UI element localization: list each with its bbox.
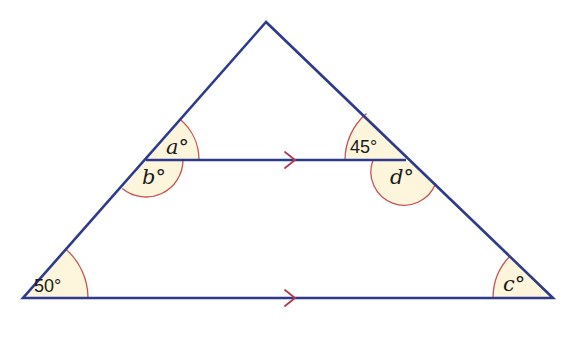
angle-50-label: 50° (34, 276, 61, 296)
angle-c-label: c° (503, 272, 525, 296)
angle-a-label: a° (166, 135, 189, 159)
angle-d-label: d° (390, 165, 414, 189)
angle-b-label: b° (142, 165, 166, 189)
angle-45-label: 45° (350, 137, 377, 157)
triangle-parallel-lines-diagram: a° b° 45° d° 50° c° (0, 0, 568, 337)
